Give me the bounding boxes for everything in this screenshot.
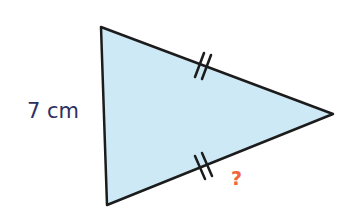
triangle-diagram: 7 cm ? xyxy=(0,0,357,218)
unknown-length-label: ? xyxy=(231,167,242,189)
isosceles-triangle xyxy=(101,27,333,205)
side-length-label: 7 cm xyxy=(27,99,79,123)
